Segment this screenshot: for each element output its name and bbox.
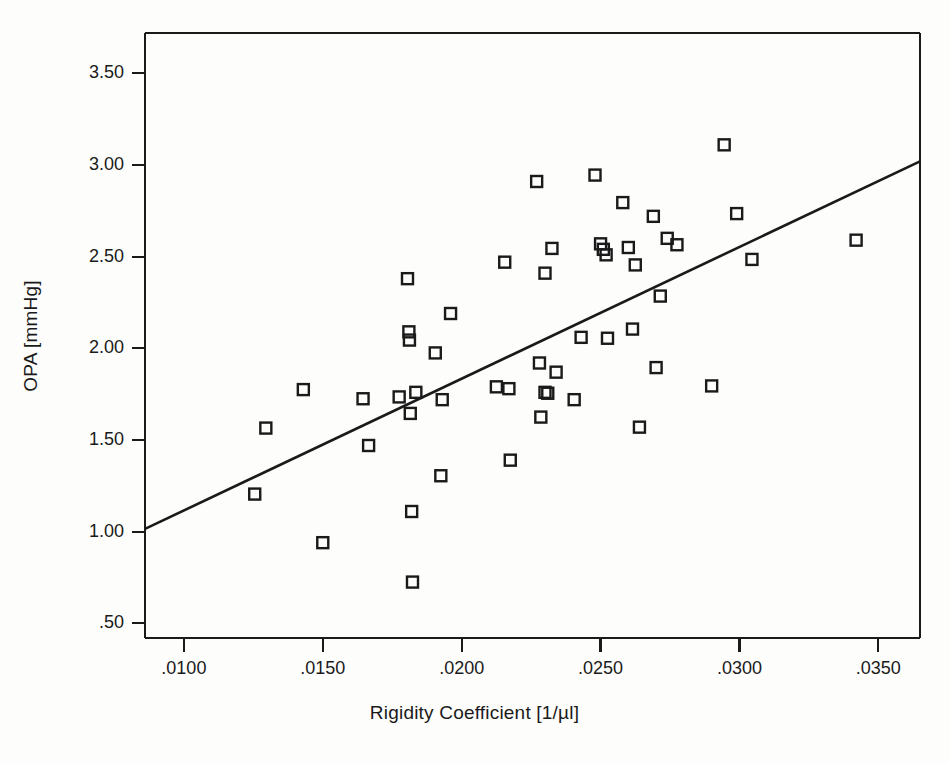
y-tick-label: .50 [34,612,124,633]
data-point-marker [602,333,613,344]
data-point-marker [406,506,417,517]
data-point-marker [317,537,328,548]
y-tick-label: 1.00 [34,521,124,542]
data-point-marker [499,257,510,268]
data-point-marker [505,455,516,466]
data-point-marker [298,384,309,395]
y-tick-label: 2.00 [34,337,124,358]
data-point-marker [731,208,742,219]
x-tick-label: .0150 [273,658,373,679]
data-point-marker [358,393,369,404]
scatter-plot-figure: .501.001.502.002.503.003.50 .0100.0150.0… [0,0,949,763]
data-point-marker [655,291,666,302]
data-point-marker [249,489,260,500]
data-point-marker [623,242,634,253]
data-point-marker [634,422,645,433]
data-point-marker [648,211,659,222]
data-point-marker [445,308,456,319]
x-tick-label: .0100 [134,658,234,679]
data-point-marker [746,254,757,265]
y-tick-label: 3.50 [34,62,124,83]
data-point-marker [430,347,441,358]
data-point-marker [435,470,446,481]
y-axis-title: OPA [mmHg] [20,186,42,486]
data-point-marker [617,197,628,208]
y-tick-label: 3.00 [34,154,124,175]
data-point-marker [363,440,374,451]
x-tick-label: .0300 [689,658,789,679]
data-point-marker [719,139,730,150]
data-point-marker [540,268,551,279]
x-tick-label: .0200 [412,658,512,679]
data-point-marker [437,394,448,405]
y-tick-label: 1.50 [34,429,124,450]
data-point-marker [576,332,587,343]
data-point-marker [627,324,638,335]
figure-page: .501.001.502.002.503.003.50 .0100.0150.0… [0,0,949,763]
y-tick-label: 2.50 [34,246,124,267]
data-point-marker [851,235,862,246]
data-point-marker [569,394,580,405]
data-points [249,139,861,587]
data-point-marker [503,383,514,394]
data-point-marker [405,408,416,419]
data-point-marker [551,367,562,378]
data-point-marker [535,412,546,423]
data-point-marker [590,170,601,181]
data-point-marker [260,423,271,434]
x-axis-title: Rigidity Coefficient [1/µl] [0,702,949,724]
fit-line [145,161,920,529]
data-point-marker [706,380,717,391]
data-point-marker [651,362,662,373]
data-point-marker [402,273,413,284]
data-point-marker [491,381,502,392]
x-tick-label: .0350 [828,658,928,679]
x-tick-label: .0250 [551,658,651,679]
data-point-marker [407,577,418,588]
data-point-marker [534,358,545,369]
data-point-marker [531,176,542,187]
data-point-marker [394,391,405,402]
data-point-marker [546,243,557,254]
regression-line [145,161,920,529]
axes-frame [145,33,920,638]
tick-marks [132,73,878,652]
data-point-marker [630,259,641,270]
data-point-marker [410,387,421,398]
plot-canvas [0,0,949,763]
